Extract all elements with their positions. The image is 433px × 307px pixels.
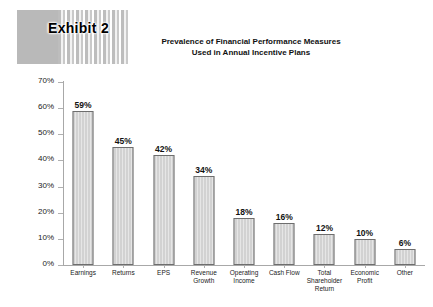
bar-value-label: 59% (63, 100, 103, 110)
exhibit-header-band (17, 10, 129, 64)
exhibit-label: Exhibit 2 (48, 20, 109, 36)
bar[interactable] (274, 223, 295, 265)
y-axis-tick-label: 20% (38, 207, 54, 216)
bar-group[interactable]: 6%Other (385, 82, 425, 265)
bar[interactable] (153, 155, 174, 265)
plot-area: 59%Earnings45%Returns42%EPS34%RevenueGro… (63, 82, 425, 265)
bar-value-label: 6% (385, 238, 425, 248)
bar-value-label: 45% (103, 136, 143, 146)
bar-group[interactable]: 16%Cash Flow (264, 82, 304, 265)
x-axis-tick-mark (284, 265, 285, 268)
chart-title-line-2: Used in Annual Incentive Plans (131, 47, 371, 58)
y-axis-tick: 0% (58, 265, 63, 266)
x-axis-tick-mark (83, 265, 84, 268)
bar-group[interactable]: 59%Earnings (63, 82, 103, 265)
y-axis-tick-mark (58, 265, 63, 266)
bar[interactable] (314, 234, 335, 265)
y-axis-tick-label: 10% (38, 233, 54, 242)
bar[interactable] (354, 239, 375, 265)
bar-group[interactable]: 42%EPS (143, 82, 183, 265)
bar-group[interactable]: 12%TotalShareholderReturn (304, 82, 344, 265)
bar-value-label: 42% (143, 144, 183, 154)
x-axis-category-label-line: Income (220, 277, 268, 285)
y-axis-tick-label: 50% (38, 128, 54, 137)
bar-group[interactable]: 18%OperatingIncome (224, 82, 264, 265)
bar-value-label: 10% (345, 228, 385, 238)
header-band-stripes (58, 10, 129, 64)
x-axis-tick-mark (405, 265, 406, 268)
bar-group[interactable]: 34%RevenueGrowth (184, 82, 224, 265)
chart-title: Prevalence of Financial Performance Meas… (131, 36, 371, 58)
x-axis-tick-mark (244, 265, 245, 268)
x-axis-tick-mark (123, 265, 124, 268)
chart-title-line-1: Prevalence of Financial Performance Meas… (131, 36, 371, 47)
x-axis-category-label-line: Profit (341, 277, 389, 285)
bar[interactable] (73, 111, 94, 265)
bar[interactable] (394, 249, 415, 265)
y-axis-tick-label: 30% (38, 181, 54, 190)
bar-group[interactable]: 45%Returns (103, 82, 143, 265)
x-axis-tick-mark (365, 265, 366, 268)
bar[interactable] (193, 176, 214, 265)
x-axis-category-label-line: Return (300, 285, 348, 293)
x-axis-tick-mark (204, 265, 205, 268)
bar[interactable] (233, 218, 254, 265)
x-axis-category-label-line: Other (381, 269, 429, 277)
y-axis-tick-label: 40% (38, 154, 54, 163)
bar-value-label: 18% (224, 207, 264, 217)
bar[interactable] (113, 147, 134, 265)
x-axis-tick-mark (164, 265, 165, 268)
header-band-solid (17, 10, 58, 64)
bar-value-label: 34% (184, 165, 224, 175)
y-axis-tick-label: 60% (38, 102, 54, 111)
bar-group[interactable]: 10%EconomicProfit (345, 82, 385, 265)
bar-value-label: 12% (304, 223, 344, 233)
bar-value-label: 16% (264, 212, 304, 222)
x-axis-tick-mark (324, 265, 325, 268)
bar-chart: 70%60%50%40%30%20%10%0% 59%Earnings45%Re… (0, 70, 433, 307)
y-axis-tick-label: 0% (42, 259, 54, 268)
y-axis-tick-label: 70% (38, 76, 54, 85)
x-axis-category-label: Other (381, 269, 429, 277)
